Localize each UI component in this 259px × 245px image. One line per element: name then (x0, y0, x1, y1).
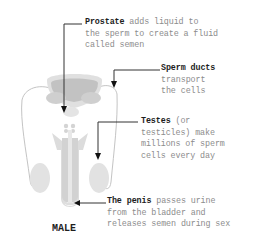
right-testis (89, 163, 109, 193)
penis-desc-1: passes urine (151, 196, 215, 206)
penis-desc-2: from the bladder and (107, 208, 206, 218)
left-seminal-vesicle (46, 92, 66, 104)
testes-desc-2: testicles) make (141, 128, 215, 138)
sperm-ducts-desc-1: transport (161, 75, 205, 85)
testes-label: Testes (or testicles) make millions of s… (141, 116, 225, 162)
testes-desc-4: cells every day (141, 151, 215, 161)
testes-desc-1: (or (171, 116, 191, 126)
penis-label: The penis passes urine from the bladder … (107, 196, 230, 231)
prostate-desc-2: the sperm to create a fluid (85, 29, 218, 39)
right-seminal-vesicle (81, 92, 101, 104)
diagram-title: MALE (52, 223, 76, 234)
testes-arrowhead (95, 153, 101, 160)
sperm-ducts-pointer (114, 70, 160, 81)
left-testis (30, 163, 50, 193)
male-reproductive-diagram: Prostate adds liquid to the sperm to cre… (0, 0, 259, 245)
prostate-desc-1: adds liquid to (124, 17, 198, 27)
prostate-term: Prostate (85, 17, 124, 27)
testes-desc-3: millions of sperm (141, 139, 225, 149)
testes-pointer (98, 122, 138, 153)
penis-term: The penis (107, 196, 151, 206)
penis-desc-3: releases semen during sex (107, 219, 230, 229)
prostate-label: Prostate adds liquid to the sperm to cre… (85, 17, 218, 52)
prostate-desc-3: called semen (85, 40, 144, 50)
sperm-ducts-label: Sperm ducts transport the cells (161, 63, 215, 98)
sperm-ducts-desc-2: the cells (161, 86, 205, 96)
sperm-ducts-term: Sperm ducts (161, 63, 215, 73)
testes-term: Testes (141, 116, 171, 126)
